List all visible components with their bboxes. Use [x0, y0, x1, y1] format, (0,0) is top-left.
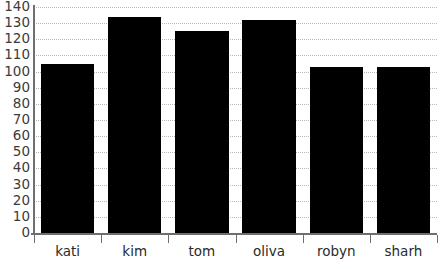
y-axis-tick-label: 20	[0, 194, 30, 208]
y-axis-tick-label: 110	[0, 49, 30, 63]
x-axis-tick-label: oliva	[236, 244, 303, 259]
x-axis-tick-label: tom	[168, 244, 235, 259]
x-axis-tick-mark	[236, 235, 237, 243]
x-axis-tick-mark	[370, 235, 371, 243]
x-axis-tick-mark	[303, 235, 304, 243]
x-axis-tick-label: kim	[101, 244, 168, 259]
y-axis-tick-labels: 0102030405060708090100110120130140	[0, 0, 30, 241]
bar	[242, 20, 295, 233]
bar	[41, 64, 94, 234]
bar	[377, 67, 430, 233]
bar	[108, 17, 161, 233]
bars-layer	[34, 7, 437, 233]
y-axis-tick-label: 130	[0, 16, 30, 30]
y-axis-tick-label: 140	[0, 0, 30, 14]
bar	[175, 31, 228, 233]
x-axis-tick-label: robyn	[303, 244, 370, 259]
bar-chart: 0102030405060708090100110120130140 katik…	[0, 0, 441, 269]
y-axis-tick-label: 60	[0, 129, 30, 143]
y-axis-tick-label: 30	[0, 178, 30, 192]
x-axis-tick-mark	[168, 235, 169, 243]
y-axis-tick-label: 50	[0, 146, 30, 160]
x-axis-tick-mark	[34, 235, 35, 243]
x-axis-tick-label: kati	[34, 244, 101, 259]
y-axis-tick-label: 80	[0, 97, 30, 111]
y-axis-tick-label: 0	[0, 226, 30, 240]
x-axis-tick-mark	[437, 235, 438, 243]
y-axis-tick-label: 90	[0, 81, 30, 95]
bar	[310, 67, 363, 233]
x-axis-tick-label: sharh	[370, 244, 437, 259]
y-axis-tick-label: 100	[0, 65, 30, 79]
x-axis-line	[31, 233, 437, 235]
y-axis-tick-label: 10	[0, 210, 30, 224]
y-axis-tick-label: 120	[0, 33, 30, 47]
x-axis-tick-mark	[101, 235, 102, 243]
y-axis-tick-label: 40	[0, 162, 30, 176]
y-axis-tick-label: 70	[0, 113, 30, 127]
